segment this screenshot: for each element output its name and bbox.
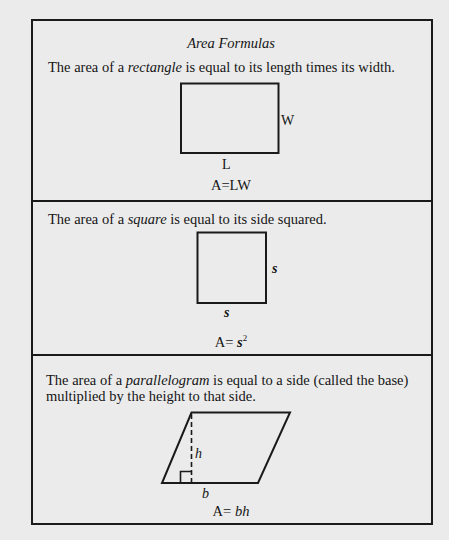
desc-text: The area of a (46, 372, 126, 388)
square-formula: A= s2 (31, 330, 431, 350)
side-label-bottom: s (224, 306, 229, 320)
square-description: The area of a square is equal to its sid… (48, 211, 327, 227)
desc-text: is equal to its side squared. (167, 211, 327, 227)
formula-expr: LW (230, 177, 251, 193)
formula-expr: bh (235, 503, 250, 519)
rectangle-formula: A=LW (31, 177, 431, 193)
length-label: L (222, 158, 231, 172)
formula-eq: = (221, 177, 229, 193)
term-parallelogram: parallelogram (126, 372, 210, 388)
parallelogram-description-line2: multiplied by the height to that side. (46, 388, 256, 404)
term-square: square (128, 211, 167, 227)
formula-exponent: 2 (243, 333, 248, 343)
desc-text: is equal to a side (called the base) (209, 372, 408, 388)
rectangle-shape (181, 84, 279, 154)
base-label: b (202, 487, 209, 501)
width-label: W (281, 114, 294, 128)
shape-diagrams (0, 0, 449, 540)
formula-var: A (213, 503, 223, 519)
parallelogram-description: The area of a parallelogram is equal to … (46, 372, 408, 388)
square-shape (198, 233, 267, 304)
formula-var: A (211, 177, 221, 193)
height-label: h (195, 447, 202, 461)
right-angle-marker (181, 472, 192, 484)
side-label-right: s (272, 262, 277, 276)
desc-text: The area of a (48, 211, 128, 227)
formula-var: A (215, 334, 225, 350)
parallelogram-formula: A= bh (31, 503, 431, 519)
